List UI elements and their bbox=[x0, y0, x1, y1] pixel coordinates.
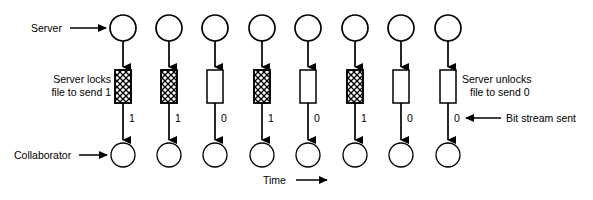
bit-label: 0 bbox=[314, 112, 320, 124]
timing-diagram: 1 1 0 1 bbox=[0, 0, 593, 200]
file-unlocked-box bbox=[300, 70, 316, 103]
bit-label: 1 bbox=[361, 112, 367, 124]
server-locks-label-group: Server locks file to send 1 bbox=[51, 73, 111, 98]
bit-label: 0 bbox=[454, 112, 460, 124]
bit-label: 1 bbox=[129, 112, 135, 124]
file-unlocked-box bbox=[207, 70, 223, 103]
server-node bbox=[156, 15, 182, 41]
collaborator-node bbox=[203, 143, 227, 167]
file-locked-box bbox=[254, 70, 270, 103]
file-locked-box bbox=[161, 70, 177, 103]
server-node bbox=[342, 15, 368, 41]
diagram-root: 1 1 0 1 bbox=[0, 0, 593, 200]
collaborator-label: Collaborator bbox=[14, 149, 72, 161]
server-node bbox=[388, 15, 414, 41]
bit-label: 1 bbox=[175, 112, 181, 124]
server-node bbox=[110, 15, 136, 41]
server-locks-label-line2: file to send 1 bbox=[51, 86, 111, 98]
collaborator-node bbox=[296, 143, 320, 167]
server-unlocks-label-line2: file to send 0 bbox=[470, 86, 530, 98]
bit-label: 1 bbox=[268, 112, 274, 124]
file-locked-box bbox=[115, 70, 131, 103]
server-node bbox=[435, 15, 461, 41]
collaborator-node bbox=[389, 143, 413, 167]
bit-label: 0 bbox=[221, 112, 227, 124]
collaborator-node bbox=[111, 143, 135, 167]
bit-label: 0 bbox=[407, 112, 413, 124]
server-label: Server bbox=[31, 22, 62, 34]
file-unlocked-box bbox=[440, 70, 456, 103]
server-node bbox=[295, 15, 321, 41]
server-node bbox=[202, 15, 228, 41]
collaborator-node bbox=[157, 143, 181, 167]
collaborator-node bbox=[436, 143, 460, 167]
collaborator-node bbox=[250, 143, 274, 167]
collaborator-node bbox=[343, 143, 367, 167]
time-label: Time bbox=[263, 174, 286, 186]
file-locked-box bbox=[347, 70, 363, 103]
bit-stream-sent-label: Bit stream sent bbox=[506, 112, 576, 124]
server-node bbox=[249, 15, 275, 41]
server-unlocks-label-line1: Server unlocks bbox=[462, 73, 531, 85]
file-unlocked-box bbox=[393, 70, 409, 103]
server-locks-label-line1: Server locks bbox=[53, 73, 111, 85]
server-unlocks-label-group: Server unlocks file to send 0 bbox=[462, 73, 531, 98]
